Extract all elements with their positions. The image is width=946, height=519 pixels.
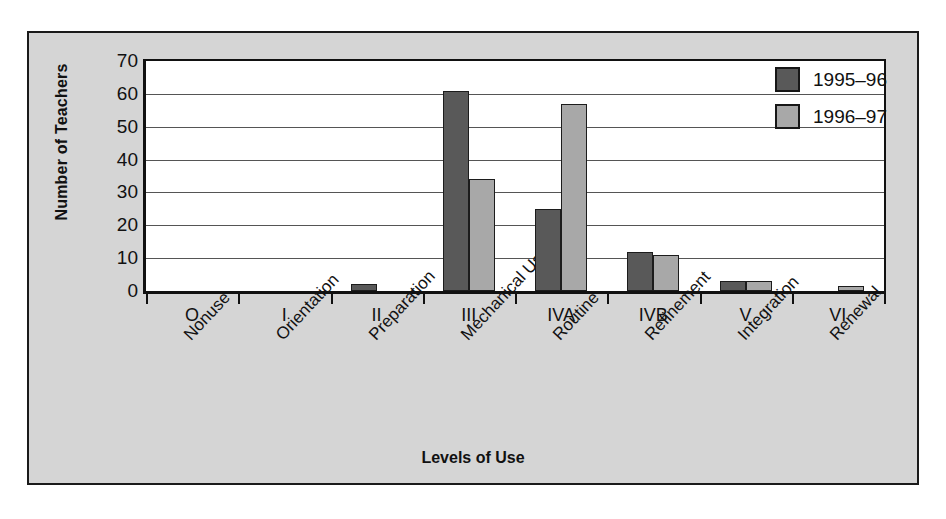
gridline [146,258,884,259]
y-axis-tick-label: 50 [117,116,138,138]
bar [653,255,679,291]
chart-panel: Number of Teachers 706050403020100ONonus… [27,31,919,485]
bar [443,91,469,291]
bar [469,179,495,291]
bar [561,104,587,291]
legend-label: 1995–96 [813,69,887,91]
gridline [146,192,884,193]
legend-item: 1995–96 [775,67,887,92]
y-axis-tick-label: 30 [117,181,138,203]
legend-label: 1996–97 [813,106,887,128]
y-axis-tick-label: 40 [117,149,138,171]
y-axis-tick-label: 20 [117,214,138,236]
x-axis-title: Levels of Use [29,449,917,467]
bar [627,252,653,291]
gridline [146,94,884,95]
x-axis-tick [146,291,148,304]
x-axis-tick [884,291,886,304]
x-axis-tick [238,291,240,304]
x-axis-tick [515,291,517,304]
legend-swatch-icon [775,104,800,129]
x-axis-tick [700,291,702,304]
legend-swatch-icon [775,67,800,92]
bar [351,284,377,291]
bar [720,281,746,291]
bar [838,286,864,291]
bar [746,281,772,291]
legend-item: 1996–97 [775,104,887,129]
x-axis-tick [331,291,333,304]
x-axis-tick [423,291,425,304]
gridline [146,127,884,128]
gridline [146,160,884,161]
x-axis-tick [792,291,794,304]
y-axis-tick-label: 0 [127,280,138,302]
plot-inner: 706050403020100ONonuseIOrientationIIPrep… [146,61,884,291]
y-axis-tick-label: 10 [117,247,138,269]
y-axis-tick-label: 70 [117,50,138,72]
chart-screenshot: Number of Teachers 706050403020100ONonus… [0,0,946,519]
chart-legend: 1995–96 1996–97 [775,67,887,129]
y-axis-tick-label: 60 [117,83,138,105]
bar [535,209,561,291]
x-axis-tick [607,291,609,304]
y-axis-title: Number of Teachers [53,47,71,237]
gridline [146,225,884,226]
